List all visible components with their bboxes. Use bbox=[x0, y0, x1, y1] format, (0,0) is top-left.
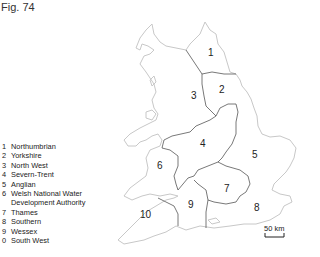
region-label-9: 9 bbox=[188, 199, 194, 210]
legend-item: 1Northumbrian bbox=[0, 142, 85, 151]
region-label-7: 7 bbox=[224, 183, 230, 194]
legend: 1Northumbrian 2Yorkshire 3North West 4Se… bbox=[0, 142, 85, 245]
border-4-7 bbox=[178, 162, 218, 190]
border-2-3 bbox=[202, 74, 216, 116]
region-label-8: 8 bbox=[254, 202, 260, 213]
region-label-4: 4 bbox=[200, 138, 206, 149]
region-label-2: 2 bbox=[219, 84, 225, 95]
legend-item: 4Severn-Trent bbox=[0, 170, 85, 179]
region-label-1: 1 bbox=[208, 47, 214, 58]
region-label-5: 5 bbox=[252, 149, 258, 160]
border-7-9 bbox=[194, 180, 208, 200]
border-5-7 bbox=[218, 162, 250, 196]
legend-item: 7Thames bbox=[0, 208, 85, 217]
legend-item: 8Southern bbox=[0, 217, 85, 226]
legend-item: 2Yorkshire bbox=[0, 151, 85, 160]
region-label-3: 3 bbox=[191, 90, 197, 101]
scale-bar-label: 50 km bbox=[264, 224, 284, 233]
border-4-6 bbox=[162, 132, 190, 190]
isle-of-wight bbox=[208, 218, 220, 224]
isle-of-man bbox=[150, 76, 156, 86]
border-7-8 bbox=[208, 196, 240, 204]
scale-bar bbox=[264, 233, 286, 239]
border-8-9 bbox=[206, 200, 208, 228]
legend-item: 0South West bbox=[0, 236, 85, 245]
border-1-3 bbox=[186, 50, 202, 74]
legend-item: 3North West bbox=[0, 161, 85, 170]
border-2-4 bbox=[216, 104, 238, 122]
border-9-10 bbox=[158, 198, 178, 226]
coastline-north bbox=[152, 22, 205, 50]
legend-item-continuation: Development Authority bbox=[0, 198, 85, 207]
region-label-6: 6 bbox=[157, 160, 163, 171]
border-3-4 bbox=[190, 116, 216, 132]
legend-item: 6Welsh National Water bbox=[0, 189, 85, 198]
anglesey bbox=[146, 110, 156, 120]
legend-item: 9Wessex bbox=[0, 227, 85, 236]
border-4-5 bbox=[218, 122, 236, 162]
legend-item: 5Anglian bbox=[0, 180, 85, 189]
region-label-10: 10 bbox=[140, 209, 151, 220]
